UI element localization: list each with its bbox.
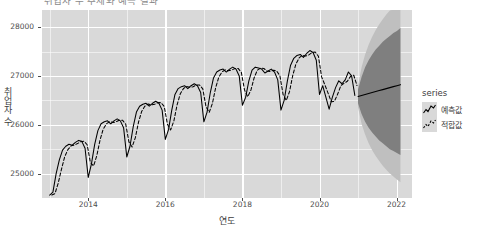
x-tick-mark — [320, 198, 321, 201]
x-tick-label: 2018 — [222, 201, 262, 209]
legend-item-forecast[interactable]: 예측값 — [422, 102, 462, 117]
y-tick-label: 25000 — [0, 170, 34, 178]
chart-title: 취업자 수 추세와 예측 결과 — [44, 0, 158, 7]
legend-key-fitted-icon — [422, 117, 437, 132]
plot-area — [42, 10, 412, 198]
legend-item-fitted[interactable]: 적합값 — [422, 117, 462, 132]
x-tick-mark — [242, 198, 243, 201]
x-tick-mark — [88, 198, 89, 201]
legend-title: series — [422, 88, 462, 98]
x-tick-mark — [397, 198, 398, 201]
x-tick-label: 2016 — [145, 201, 185, 209]
legend-label-fitted: 적합값 — [441, 119, 462, 130]
x-tick-mark — [165, 198, 166, 201]
legend-key-forecast-icon — [422, 102, 437, 117]
plot-panel — [42, 10, 412, 198]
y-tick-mark — [38, 27, 41, 28]
y-tick-label: 26000 — [0, 121, 34, 129]
y-tick-label: 28000 — [0, 23, 34, 31]
x-tick-label: 2020 — [300, 201, 340, 209]
forecast-band-80 — [358, 28, 400, 155]
y-tick-mark — [38, 174, 41, 175]
series-line-fitted — [52, 52, 357, 195]
x-tick-label: 2022 — [377, 201, 417, 209]
series-line-actual — [50, 51, 355, 196]
legend-label-forecast: 예측값 — [441, 104, 462, 115]
y-tick-mark — [38, 125, 41, 126]
chart-root: 취업자 수 추세와 예측 결과 취업자 수 연도 series 예측값 — [0, 0, 486, 244]
x-tick-label: 2014 — [68, 201, 108, 209]
legend: series 예측값 적합값 — [422, 88, 462, 132]
x-axis-title: 연도 — [42, 214, 412, 227]
y-tick-mark — [38, 76, 41, 77]
y-tick-label: 27000 — [0, 72, 34, 80]
